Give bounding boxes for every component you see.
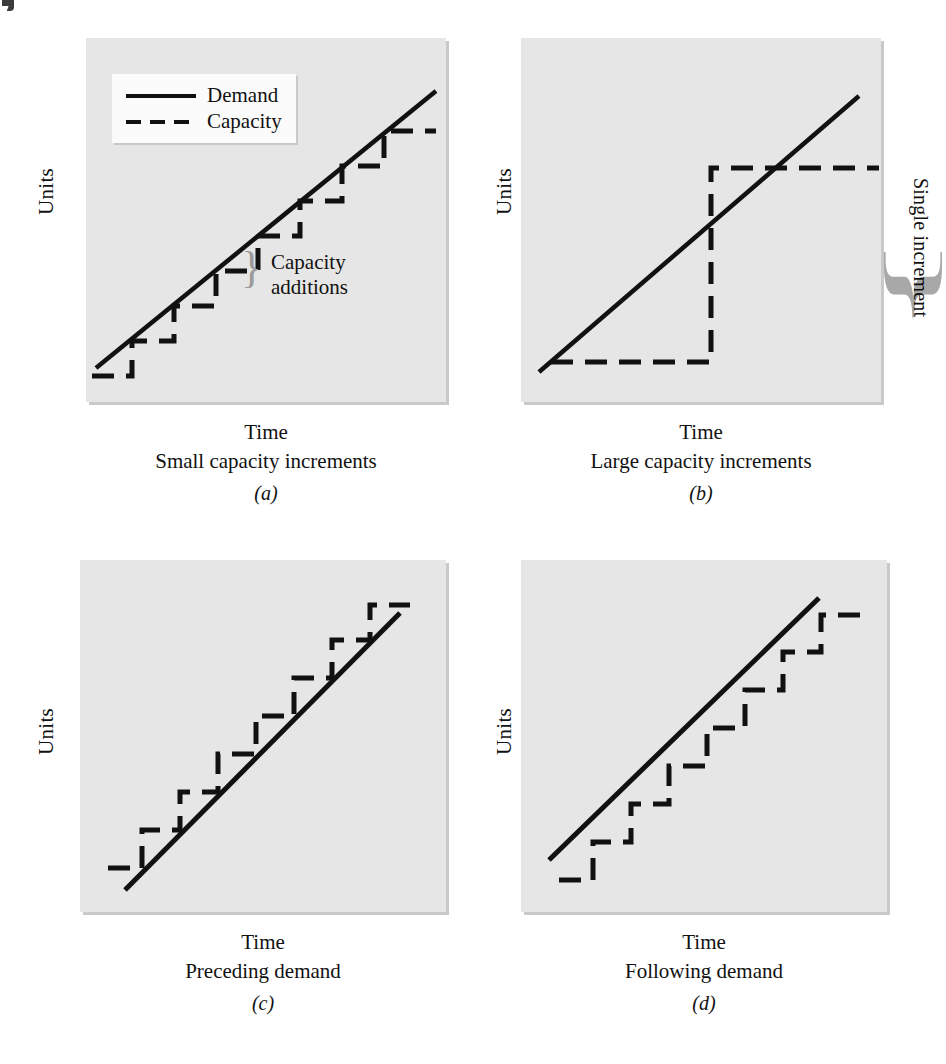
solid-line-icon <box>124 88 198 102</box>
capacity-additions-line-2: additions <box>271 275 348 299</box>
panel-c-chart-svg <box>80 560 446 912</box>
panel-c-index: (c) <box>80 989 446 1018</box>
legend-label-capacity: Capacity <box>207 111 282 132</box>
panel-d-subtitle: Following demand <box>521 957 887 986</box>
panel-d-caption: Time Following demand (d) <box>521 928 887 1018</box>
panel-a-index: (a) <box>86 479 446 508</box>
panel-b-capacity-step <box>551 168 879 362</box>
panel-c-x-axis-label: Time <box>241 930 285 954</box>
panel-b-chart-svg <box>521 38 881 402</box>
panel-d-capacity-staircase <box>559 615 861 880</box>
panel-c-subtitle: Preceding demand <box>80 957 446 986</box>
panel-c-capacity-staircase <box>108 605 410 868</box>
panel-d-index: (d) <box>521 989 887 1018</box>
panel-d-demand-line <box>549 598 819 860</box>
panel-a: Units Demand Capacity } Capacity additio… <box>0 0 465 520</box>
panel-d: Units Time Following demand (d) <box>465 540 935 1064</box>
single-increment-annotation: Single increment <box>909 178 932 317</box>
capacity-additions-annotation: Capacity additions <box>271 250 348 300</box>
capacity-additions-brace-icon: } <box>241 246 262 290</box>
panel-c-caption: Time Preceding demand (c) <box>80 928 446 1018</box>
panel-b-x-axis-label: Time <box>679 420 723 444</box>
panel-d-y-axis-label: Units <box>492 708 517 755</box>
panel-a-legend: Demand Capacity <box>112 74 296 143</box>
panel-d-x-axis-label: Time <box>682 930 726 954</box>
panel-c: Units Time Preceding demand (c) <box>0 540 465 1064</box>
panel-d-plot-area <box>521 560 887 912</box>
panel-b-plot-area: } Single increment <box>521 38 881 402</box>
panel-a-capacity-staircase <box>92 131 436 376</box>
panel-b: Units } Single increment Time Large capa… <box>465 0 935 520</box>
panel-a-x-axis-label: Time <box>244 420 288 444</box>
legend-item-demand: Demand <box>124 82 282 108</box>
dashed-line-icon <box>124 114 198 128</box>
panel-c-demand-line <box>125 613 400 890</box>
panel-a-subtitle: Small capacity increments <box>86 447 446 476</box>
legend-item-capacity: Capacity <box>124 108 282 134</box>
panel-a-y-axis-label: Units <box>34 168 59 215</box>
panel-b-caption: Time Large capacity increments (b) <box>521 418 881 508</box>
panel-c-plot-area <box>80 560 446 912</box>
panel-b-index: (b) <box>521 479 881 508</box>
panel-c-y-axis-label: Units <box>34 708 59 755</box>
panel-b-subtitle: Large capacity increments <box>521 447 881 476</box>
panel-a-caption: Time Small capacity increments (a) <box>86 418 446 508</box>
panel-b-demand-line <box>539 96 859 372</box>
panel-d-chart-svg <box>521 560 887 912</box>
panel-b-y-axis-label: Units <box>492 168 517 215</box>
capacity-additions-line-1: Capacity <box>271 250 346 274</box>
legend-label-demand: Demand <box>207 85 278 106</box>
panel-a-plot-area: Demand Capacity } Capacity additions <box>86 38 446 402</box>
